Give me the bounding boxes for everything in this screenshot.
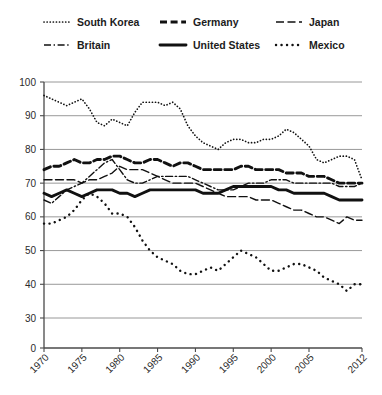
y-tick-label: 70 xyxy=(25,178,37,189)
legend-label: Japan xyxy=(309,16,339,28)
y-tick-label: 50 xyxy=(25,245,37,256)
y-tick-label: 40 xyxy=(25,279,37,290)
y-tick-label: 60 xyxy=(25,211,37,222)
y-tick-label: 90 xyxy=(25,110,37,121)
legend-label: South Korea xyxy=(77,16,140,28)
y-tick-label: 100 xyxy=(19,77,36,88)
legend-label: Germany xyxy=(193,16,239,28)
legend-label: United States xyxy=(193,39,260,51)
y-tick-label: 0 xyxy=(30,343,36,354)
chart-figure: South KoreaGermanyJapanBritainUnited Sta… xyxy=(0,0,382,395)
legend-label: Mexico xyxy=(309,39,345,51)
legend-label: Britain xyxy=(77,39,110,51)
y-tick-label: 80 xyxy=(25,144,37,155)
y-tick-label: 30 xyxy=(25,313,37,324)
